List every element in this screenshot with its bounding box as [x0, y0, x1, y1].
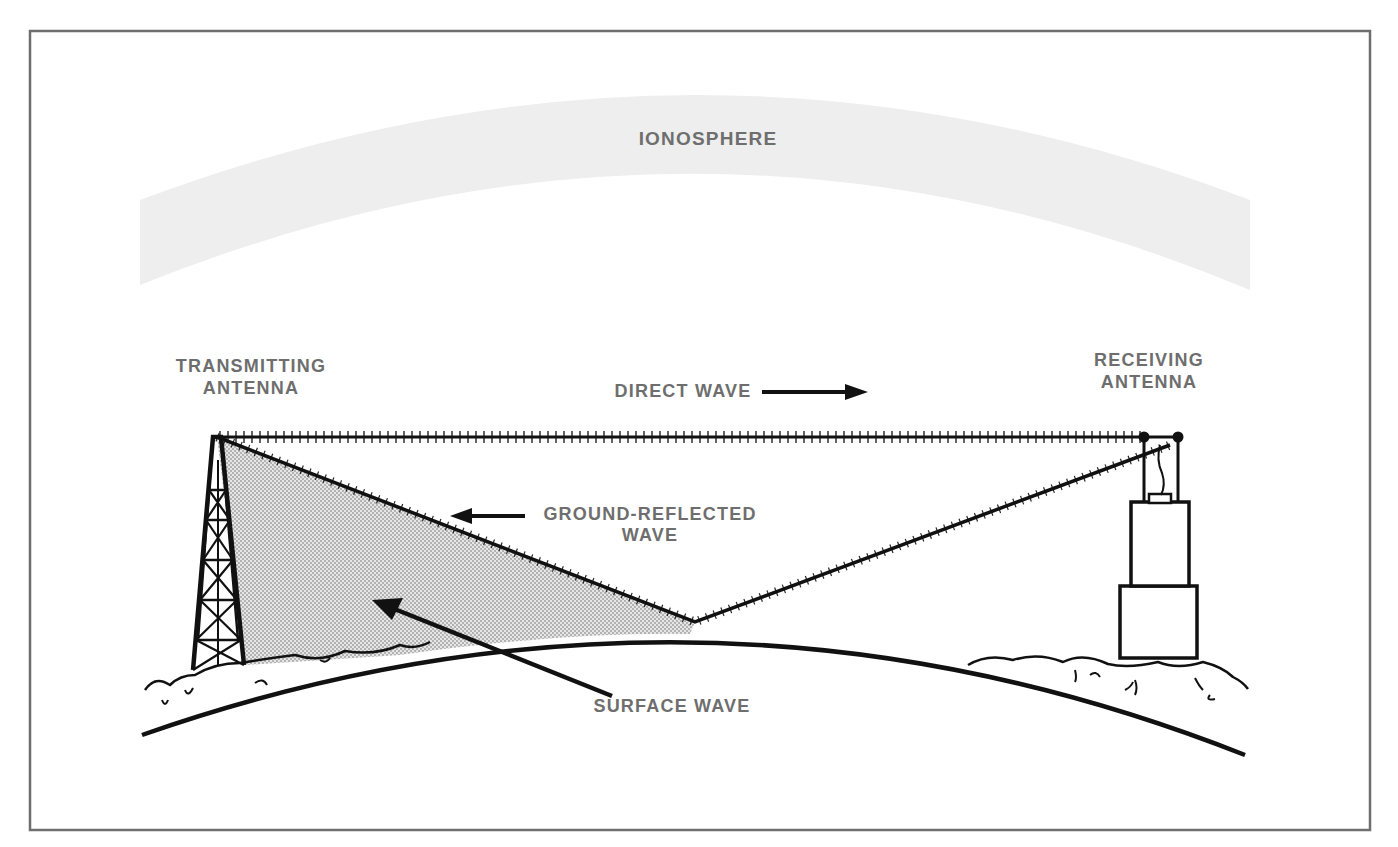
ground-reflected-label-line2: WAVE	[622, 525, 678, 545]
transmitting-antenna-label-line1: TRANSMITTING	[176, 356, 326, 376]
direct-wave-path	[217, 431, 1144, 443]
direct-wave-arrow-icon	[762, 384, 868, 400]
ionosphere-band	[140, 95, 1250, 290]
ground-right-marks	[1075, 670, 1215, 700]
receiving-antenna-label-line2: ANTENNA	[1101, 372, 1197, 392]
ionosphere-label: IONOSPHERE	[639, 128, 778, 149]
direct-wave-label: DIRECT WAVE	[615, 381, 752, 401]
ground-right	[968, 656, 1248, 689]
ground-reflected-arrow-icon	[450, 508, 525, 524]
transmitting-antenna-label-line2: ANTENNA	[203, 378, 299, 398]
surface-wave-label: SURFACE WAVE	[593, 696, 750, 716]
ground-reflected-label-line1: GROUND-REFLECTED	[543, 504, 756, 524]
surface-wave-region	[217, 437, 695, 665]
propagation-diagram: IONOSPHERE DIRE	[0, 0, 1398, 847]
receiving-antenna-label-line1: RECEIVING	[1094, 350, 1204, 370]
receiving-antenna-icon	[1120, 432, 1197, 659]
